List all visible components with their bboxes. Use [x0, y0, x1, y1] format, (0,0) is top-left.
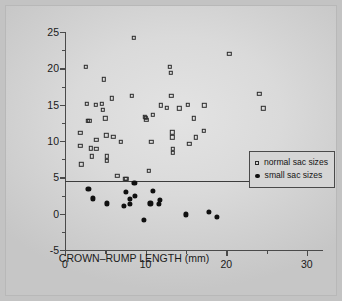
data-point: [133, 194, 138, 199]
data-point: [87, 118, 91, 122]
x-tick-label: 30: [292, 258, 322, 270]
open-square-icon: [255, 161, 259, 165]
data-point: [103, 116, 107, 120]
legend-item-normal: normal sac sizes: [255, 156, 328, 169]
data-point: [214, 214, 219, 219]
data-point: [183, 212, 188, 217]
y-tick-minor: [62, 232, 65, 233]
data-point: [94, 137, 98, 141]
data-point: [105, 158, 109, 162]
data-point: [127, 202, 132, 207]
data-point: [171, 150, 175, 154]
y-axis-line: [65, 32, 66, 250]
data-point: [177, 106, 181, 110]
data-point: [159, 103, 163, 107]
plot-area: -505101520250102030: [65, 32, 323, 250]
y-tick-mark: [60, 32, 65, 33]
data-point: [101, 77, 105, 81]
data-point: [202, 103, 206, 107]
data-point: [104, 201, 109, 206]
y-tick-label: 0: [19, 208, 59, 220]
data-point: [100, 102, 104, 106]
data-point: [185, 102, 189, 106]
y-tick-label: 15: [19, 99, 59, 111]
x-tick-label: 20: [211, 258, 241, 270]
data-point: [150, 189, 155, 194]
data-point: [158, 197, 163, 202]
data-point: [79, 162, 83, 166]
data-point: [131, 36, 135, 40]
x-tick-mark: [307, 251, 308, 256]
x-tick-mark: [226, 251, 227, 256]
data-point: [111, 134, 115, 138]
data-point: [148, 201, 153, 206]
y-tick-minor: [62, 196, 65, 197]
data-point: [110, 96, 114, 100]
data-point: [85, 102, 89, 106]
data-point: [132, 181, 137, 186]
data-point: [141, 218, 146, 223]
data-point: [78, 144, 82, 148]
data-point: [101, 108, 105, 112]
data-point: [168, 65, 172, 69]
figure-container: MEAN SAC SIZE MINUS CROWN–RUMP LENGTH -5…: [0, 0, 342, 301]
data-point: [187, 142, 191, 146]
y-tick-label: 10: [19, 135, 59, 147]
y-tick-minor: [62, 123, 65, 124]
data-point: [124, 177, 128, 181]
data-point: [169, 94, 173, 98]
legend-label-small: small sac sizes: [265, 169, 323, 182]
y-tick-mark: [60, 105, 65, 106]
data-point: [124, 189, 129, 194]
data-point: [227, 52, 231, 56]
y-tick-minor: [62, 159, 65, 160]
data-point: [121, 203, 126, 208]
x-axis-title: CROWN–RUMP LENGTH (mm): [59, 252, 209, 264]
legend-item-small: small sac sizes: [255, 169, 328, 182]
data-point: [201, 129, 205, 133]
data-point: [130, 94, 134, 98]
y-tick-mark: [60, 177, 65, 178]
data-point: [261, 106, 265, 110]
data-point: [149, 140, 153, 144]
chart-legend: normal sac sizes small sac sizes: [249, 151, 335, 188]
data-point: [151, 113, 155, 117]
data-point: [78, 131, 82, 135]
data-point: [192, 116, 196, 120]
data-point: [144, 118, 148, 122]
y-tick-mark: [60, 68, 65, 69]
data-point: [94, 147, 98, 151]
data-point: [89, 146, 93, 150]
data-point: [93, 102, 97, 106]
y-tick-label: -5: [19, 244, 59, 256]
data-point: [164, 105, 168, 109]
y-tick-label: 20: [19, 62, 59, 74]
legend-label-normal: normal sac sizes: [264, 156, 328, 169]
data-point: [257, 92, 261, 96]
data-point: [168, 70, 172, 74]
data-point: [118, 140, 122, 144]
y-tick-label: 5: [19, 171, 59, 183]
data-point: [104, 133, 108, 137]
data-point: [193, 135, 197, 139]
y-tick-minor: [62, 87, 65, 88]
y-tick-mark: [60, 214, 65, 215]
y-tick-label: 25: [19, 26, 59, 38]
filled-circle-icon: [255, 174, 260, 179]
data-point: [89, 154, 93, 158]
data-point: [91, 196, 96, 201]
data-point: [86, 186, 91, 191]
data-point: [170, 135, 174, 139]
data-point: [206, 210, 211, 215]
data-point: [156, 202, 161, 207]
x-tick-minor: [267, 251, 268, 254]
data-point: [147, 169, 151, 173]
data-point: [170, 130, 174, 134]
data-point: [115, 174, 119, 178]
data-point: [84, 65, 88, 69]
y-tick-mark: [60, 141, 65, 142]
y-tick-minor: [62, 50, 65, 51]
